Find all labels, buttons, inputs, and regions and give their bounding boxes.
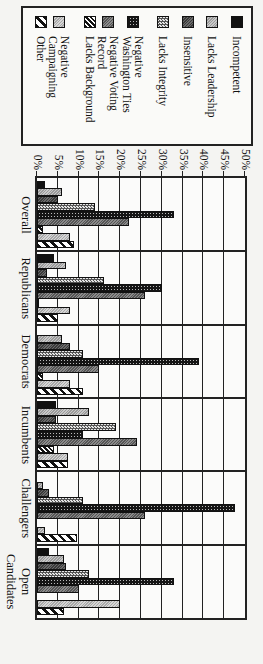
bar-lacks-background (37, 373, 43, 380)
bar-lacks-leadership (37, 188, 62, 195)
bar-lacks-leadership (37, 482, 43, 489)
group-label: Open Candidates (3, 545, 33, 619)
legend-item: Insensitive (182, 16, 194, 86)
legend-swatch-icon (127, 16, 139, 28)
legend-swatch-icon (231, 16, 243, 28)
legend-label: Negative Washington Ties (121, 36, 145, 113)
group-label: Democrats (18, 325, 33, 399)
legend-item: Other (35, 16, 47, 62)
legend-label: Lacks Leadership (207, 36, 219, 117)
legend-label: Negative Voting Record (97, 36, 121, 111)
bar-lacks-leadership (37, 555, 64, 562)
legend-swatch-icon (84, 16, 96, 28)
bar-insensitive (37, 563, 66, 570)
bar-insensitive (37, 343, 70, 350)
legend: IncompetentLacks LeadershipInsensitiveLa… (21, 6, 253, 146)
bar-negative-campaigning (37, 380, 70, 387)
bar-incompetent (37, 548, 49, 555)
y-tick-mark (119, 171, 120, 176)
bar-other (37, 388, 83, 395)
bar-negative-washington-ties (37, 578, 174, 585)
group-label: Republicans (18, 251, 33, 325)
bar-negative-washington-ties (37, 504, 235, 511)
bar-other (37, 534, 77, 541)
bar-insensitive (37, 196, 58, 203)
bar-lacks-leadership (37, 408, 89, 415)
bar-negative-washington-ties (37, 211, 174, 218)
rotated-chart-figure: 0%5%10%15%20%25%30%35%40%45%50% Negative… (0, 0, 263, 664)
bar-lacks-leadership (37, 262, 66, 269)
y-tick-mark (182, 171, 183, 176)
bar-negative-campaigning (37, 527, 45, 534)
y-tick-mark (202, 171, 203, 176)
y-tick-mark (244, 171, 245, 176)
y-tick-mark (140, 171, 141, 176)
bar-lacks-background (37, 446, 54, 453)
bar-lacks-integrity (37, 277, 104, 284)
bar-other (37, 314, 58, 321)
bar-lacks-integrity (37, 423, 116, 430)
y-tick-mark (57, 171, 58, 176)
bar-negative-washington-ties (37, 284, 162, 291)
bar-negative-voting-record (37, 365, 99, 372)
legend-swatch-icon (35, 16, 47, 28)
y-tick-mark (161, 171, 162, 176)
y-tick-mark (36, 171, 37, 176)
bar-insensitive (37, 416, 56, 423)
legend-swatch-icon (103, 16, 115, 28)
group-label: Incumbents (18, 398, 33, 472)
group-divider (37, 544, 245, 546)
bar-incompetent (37, 401, 56, 408)
y-tick-mark (98, 171, 99, 176)
legend-item: Negative Campaigning (48, 16, 72, 98)
legend-swatch-icon (54, 16, 66, 28)
legend-label: Lacks Integrity (158, 36, 170, 106)
group-divider (37, 397, 245, 399)
group-divider (37, 470, 245, 472)
bar-lacks-integrity (37, 497, 83, 504)
bar-lacks-background (37, 299, 39, 306)
bar-negative-voting-record (37, 585, 79, 592)
bar-negative-campaigning (37, 233, 70, 240)
bar-other (37, 608, 64, 615)
legend-label: Other (35, 36, 47, 62)
legend-item: Lacks Leadership (207, 16, 219, 117)
bar-lacks-leadership (37, 335, 62, 342)
bar-negative-campaigning (37, 453, 68, 460)
bar-negative-washington-ties (37, 431, 83, 438)
group-divider (37, 324, 245, 326)
bar-incompetent (37, 254, 54, 261)
group-divider (37, 250, 245, 252)
bar-negative-voting-record (37, 438, 137, 445)
bar-lacks-integrity (37, 203, 95, 210)
bar-negative-voting-record (37, 218, 129, 225)
y-tick-mark (223, 171, 224, 176)
legend-item: Negative Washington Ties (121, 16, 145, 113)
group-label: Challengers (18, 471, 33, 545)
bar-insensitive (37, 489, 49, 496)
bar-negative-voting-record (37, 512, 145, 519)
legend-item: Negative Voting Record (97, 16, 121, 111)
legend-swatch-icon (207, 16, 219, 28)
legend-swatch-icon (158, 16, 170, 28)
legend-item: Lacks Integrity (158, 16, 170, 106)
bar-lacks-integrity (37, 350, 83, 357)
bar-lacks-background (37, 226, 43, 233)
bar-other (37, 241, 74, 248)
bar-negative-voting-record (37, 292, 145, 299)
bar-lacks-integrity (37, 570, 89, 577)
bar-negative-campaigning (37, 600, 120, 607)
bar-negative-washington-ties (37, 358, 199, 365)
legend-swatch-icon (182, 16, 194, 28)
legend-item: Incompetent (231, 16, 243, 93)
legend-item: Lacks Background (84, 16, 96, 123)
bar-negative-campaigning (37, 307, 70, 314)
legend-label: Negative Campaigning (48, 36, 72, 98)
bar-insensitive (37, 269, 47, 276)
group-label: Overall (18, 178, 33, 252)
plot-area (35, 176, 247, 620)
bar-incompetent (37, 181, 45, 188)
y-tick-mark (78, 171, 79, 176)
legend-label: Lacks Background (84, 36, 96, 123)
legend-label: Insensitive (182, 36, 194, 86)
